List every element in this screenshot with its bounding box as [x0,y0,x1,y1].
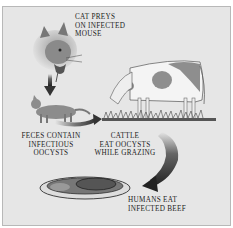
grass-icon [102,110,216,121]
label-line: mouse [75,30,125,39]
label-line: infectious [14,141,88,150]
label-humans: Humans eat infected beef [128,196,186,213]
cat-icon [31,95,90,123]
label-line: on infected [75,22,125,31]
beef-plate-icon [40,177,130,199]
label-line: eat oocysts [92,141,158,150]
label-line: while grazing [92,149,158,158]
label-line: oocysts [14,149,88,158]
arrow-down-icon [44,74,56,96]
label-line: Cat preys [75,13,125,22]
label-cattle: Cattle eat oocysts while grazing [92,132,158,158]
label-cat-preys: Cat preys on infected mouse [75,13,125,39]
label-line: Cattle [92,132,158,141]
label-feces: Feces contain infectious oocysts [14,132,88,158]
cow-icon [110,61,205,120]
label-line: Humans eat [128,196,186,205]
label-line: infected beef [128,205,186,214]
label-line: Feces contain [14,132,88,141]
